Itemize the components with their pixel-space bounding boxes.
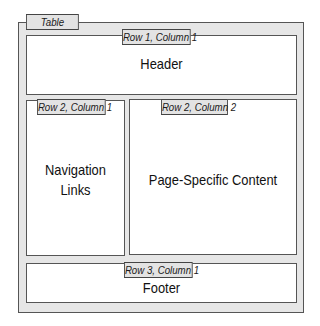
footer-content: Footer <box>45 278 278 298</box>
row3-col1-tag: Row 3, Column 1 <box>124 262 193 278</box>
navigation-content-line2: Links <box>33 180 118 200</box>
navigation-content-line1: Navigation <box>33 160 118 180</box>
page-specific-content: Page-Specific Content <box>141 170 285 190</box>
row2-col1-tag: Row 2, Column 1 <box>37 99 106 115</box>
table-tab-label: Table <box>26 14 79 30</box>
header-content: Header <box>45 54 278 74</box>
row2-col2-tag: Row 2, Column 2 <box>161 99 228 115</box>
row1-col1-tag: Row 1, Column 1 <box>122 29 191 45</box>
